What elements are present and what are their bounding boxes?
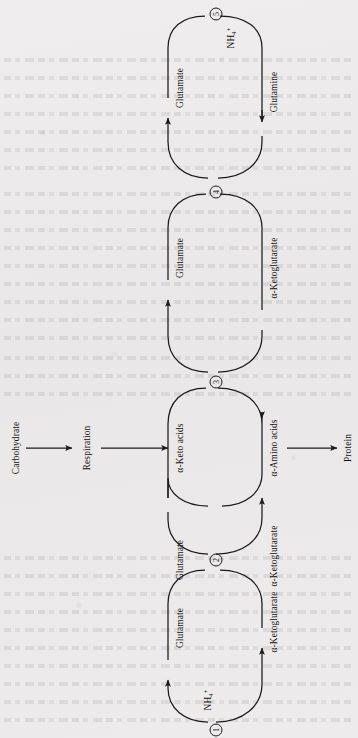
cycle-1-step-number: 1 [210,724,223,737]
cycle-5-left-arc [168,118,208,178]
cycle-5-step-number-text: 5 [211,9,222,20]
cycle-4-right-label: α-Ketoglutarate [269,238,279,299]
cycle-1-reagent-nh4: NH4+ [202,690,213,711]
cycle-4-left-label: Glutamate [175,238,185,278]
cycle-3-right-arc [218,388,262,424]
figure-page: Carbohydrate Respiration α-Keto acids α-… [0,0,358,738]
cycle-5-left-limb [168,16,205,98]
cycle-1-step-number-text: 1 [211,725,222,736]
cycle-2-left-label: Glutamate [175,540,185,580]
cycle-4-right-arc [218,330,262,372]
cycle-4-right-limb [220,194,262,310]
node-label-protein: Protein [343,434,353,462]
cycle-5-right-label: Glutamine [269,72,279,113]
cycle-1-left-label: Glutamate [175,608,185,648]
cycle-3-right-limb [222,424,262,506]
node-label-amino-acids: α-Amino acids [269,419,279,476]
cycle-2-step-number: 2 [210,554,223,567]
cycle-2-step-number-text: 2 [211,555,222,566]
cycle-3-step-number-text: 3 [211,377,222,388]
cycle-5-right-arc [218,136,262,178]
cycle-5-left-label: Glutamate [175,68,185,108]
cycle-3-left-return [168,478,208,506]
cycle-3-step-number: 3 [210,376,223,389]
cycle-2-right-label: α-Ketoglutarate [269,526,279,587]
cycle-2-left-arc [168,512,208,554]
node-label-respiration: Respiration [82,426,92,471]
cycle-5-reagent-nh4: NH4+ [225,28,236,49]
cycle-5-step-number: 5 [210,8,223,21]
cycle-4-left-arc [168,300,208,372]
cycle-3-left-limb [168,388,206,498]
cycle-4-step-number: 4 [210,186,223,199]
node-label-carbohydrate: Carbohydrate [11,422,21,474]
cycle-1-left-limb [168,570,205,660]
node-label-keto-acids: α-Keto acids [175,423,185,472]
cycle-1-right-limb [220,570,262,628]
cycle-4-step-number-text: 4 [211,187,222,198]
cycle-1-right-arc [216,648,262,722]
cycle-4-left-limb [168,194,206,280]
cycle-1-right-label: α-Ketoglutarate [269,592,279,653]
